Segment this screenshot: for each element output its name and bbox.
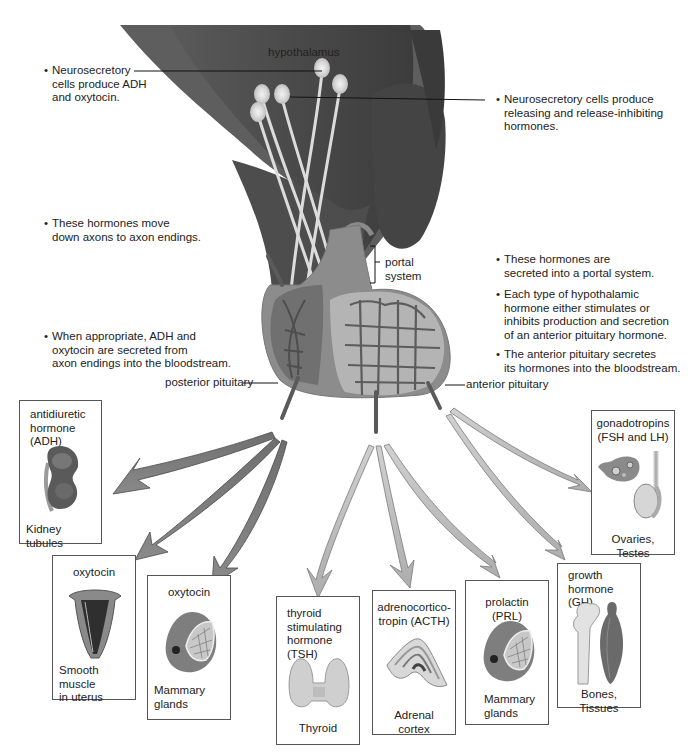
note-hypothalamic-hormone-effect: •Each type of hypothalamic hormone eithe… [496,288,669,342]
target-box-acth: adrenocortico- tropin (ACTH) Adrenal cor… [372,590,456,735]
ovary-testis-icon [598,451,670,523]
anterior-pituitary-label: anterior pituitary [466,378,548,392]
mammary-gland-icon [480,619,536,683]
hypothalamus-label: hypothalamus [268,46,340,60]
target-box-adh: antidiuretic hormone (ADH) Kidney tubule… [19,400,102,544]
thyroid-icon [287,657,351,709]
note-hormones-move-down-axons: •These hormones move down axons to axon … [44,217,201,244]
note-secreted-into-portal: •These hormones are secreted into a port… [496,253,654,280]
target-box-oxytocin-uterus: oxytocin Smooth muscle in uterus [52,555,136,700]
target-box-gonadotropins: gonadotropins (FSH and LH) Ovaries, Test… [591,410,675,555]
note-anterior-secretes: •The anterior pituitary secretes its hor… [496,348,680,375]
arrow-to-acth [376,446,414,588]
arrow-to-tsh [307,445,374,598]
note-adh-oxytocin-secreted: •When appropriate, ADH and oxytocin are … [44,330,231,371]
bone-muscle-icon [566,600,632,686]
target-box-oxytocin-mammary: oxytocin Mammary glands [147,575,231,720]
kidney-icon [40,443,84,513]
target-box-gh: growth hormone (GH) Bones, Tissues [557,563,641,708]
adrenal-gland-icon [383,635,449,691]
target-box-tsh: thyroid stimulating hormone (TSH) Thyroi… [276,596,360,745]
posterior-hormone-arrows [113,432,287,585]
target-box-prl: prolactin (PRL) Mammary glands [465,580,549,725]
portal-system-label: portal system [385,256,421,283]
note-releasing-hormones: •Neurosecretory cells produce releasing … [496,93,663,134]
mammary-gland-icon [162,610,218,674]
note-neurosecretory-adh: •Neurosecretory cells produce ADH and ox… [44,64,147,105]
posterior-pituitary-label: posterior pituitary [165,376,253,390]
uterus-icon [67,586,123,661]
anterior-hormone-arrows [307,408,592,598]
